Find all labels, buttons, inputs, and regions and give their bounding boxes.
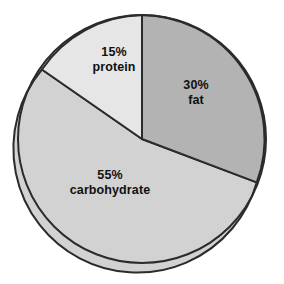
pie-label-fat: 30% fat [163,78,229,108]
pie-chart-svg [0,0,284,284]
pie-label-protein-name: protein [74,60,154,75]
pie-label-fat-percent: 30% [163,78,229,93]
pie-label-carbohydrate: 55% carbohydrate [43,168,177,198]
pie-label-protein: 15% protein [74,45,154,75]
pie-label-carbohydrate-percent: 55% [43,168,177,183]
pie-chart-figure: 30% fat 55% carbohydrate 15% protein [0,0,284,284]
pie-label-fat-name: fat [163,93,229,108]
pie-label-protein-percent: 15% [74,45,154,60]
pie-label-carbohydrate-name: carbohydrate [43,183,177,198]
